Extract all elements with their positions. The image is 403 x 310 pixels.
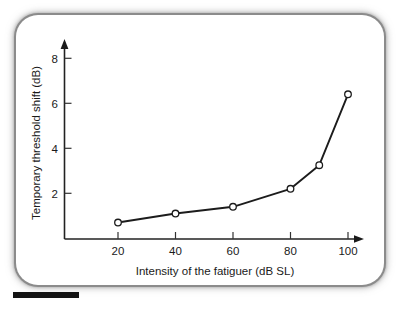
x-axis xyxy=(65,235,365,243)
y-tick-label-6: 6 xyxy=(52,98,58,110)
data-point-marker xyxy=(172,210,179,217)
figure-root: 8 6 4 2 20 40 60 80 100 Intensity of the… xyxy=(0,0,403,310)
data-series-markers xyxy=(115,91,352,226)
data-point-marker xyxy=(115,219,122,226)
data-point-marker xyxy=(345,91,352,98)
y-axis-tick-labels: 8 6 4 2 xyxy=(52,53,59,200)
x-tick-label-40: 40 xyxy=(169,245,182,257)
y-axis-ticks xyxy=(65,58,72,193)
y-axis-arrow-icon xyxy=(61,39,69,49)
y-tick-label-8: 8 xyxy=(52,53,58,65)
y-axis-title: Temporary threshold shift (dB) xyxy=(30,66,42,220)
x-tick-label-80: 80 xyxy=(284,245,297,257)
x-tick-label-20: 20 xyxy=(112,245,125,257)
x-axis-ticks xyxy=(118,232,348,239)
x-axis-title: Intensity of the fatiguer (dB SL) xyxy=(136,265,295,277)
chart-plot-area: 8 6 4 2 20 40 60 80 100 Intensity of the… xyxy=(0,0,403,310)
x-tick-label-60: 60 xyxy=(227,245,240,257)
y-axis xyxy=(61,39,69,239)
y-tick-label-4: 4 xyxy=(52,143,59,155)
scale-bar xyxy=(13,292,79,298)
data-point-marker xyxy=(287,186,294,193)
x-axis-tick-labels: 20 40 60 80 100 xyxy=(112,245,358,257)
x-axis-arrow-icon xyxy=(354,235,364,243)
y-tick-label-2: 2 xyxy=(52,188,58,200)
data-point-marker xyxy=(316,162,323,169)
x-tick-label-100: 100 xyxy=(338,245,357,257)
data-point-marker xyxy=(230,204,237,211)
